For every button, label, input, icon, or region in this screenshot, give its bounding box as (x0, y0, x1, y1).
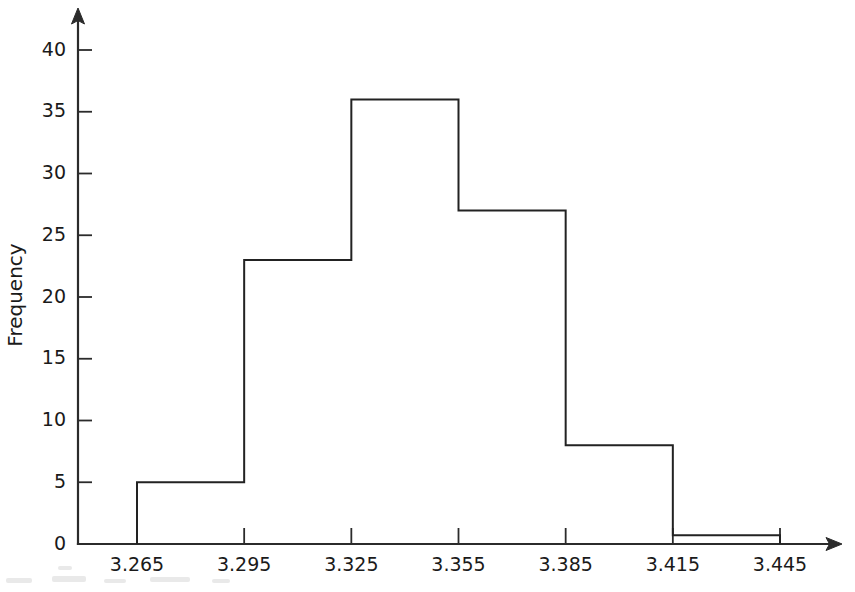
scan-artifact (58, 566, 72, 570)
y-axis (72, 8, 85, 544)
histogram-figure: 0510152025303540 3.2653.2953.3253.3553.3… (0, 0, 855, 592)
y-tick-label: 5 (54, 470, 66, 492)
histogram-bar (459, 211, 566, 544)
x-tick-label: 3.385 (538, 553, 592, 575)
scan-artifact (150, 577, 190, 582)
y-tick-label: 0 (54, 532, 66, 554)
histogram-bars (137, 99, 780, 544)
chart-canvas: 0510152025303540 3.2653.2953.3253.3553.3… (0, 0, 855, 592)
histogram-bar (137, 482, 244, 544)
y-tick-label: 15 (42, 346, 66, 368)
x-tick-label: 3.445 (753, 553, 807, 575)
scan-artifact (104, 579, 126, 583)
y-tick-label: 10 (42, 408, 66, 430)
scan-artifact (6, 578, 32, 583)
histogram-bar (244, 260, 351, 544)
histogram-bar (351, 99, 458, 544)
x-tick-label: 3.415 (646, 553, 700, 575)
y-tick-group: 0510152025303540 (42, 38, 92, 554)
histogram-bar (566, 445, 673, 544)
x-tick-label: 3.265 (110, 553, 164, 575)
scan-artifact (212, 579, 230, 583)
histogram-bar (673, 535, 780, 544)
y-tick-label: 20 (42, 285, 66, 307)
x-tick-label: 3.355 (431, 553, 485, 575)
y-tick-label: 35 (42, 99, 66, 121)
y-tick-label: 40 (42, 38, 66, 60)
y-axis-title: Frequency (3, 243, 27, 346)
y-tick-label: 25 (42, 223, 66, 245)
x-tick-label: 3.295 (217, 553, 271, 575)
y-tick-label: 30 (42, 161, 66, 183)
scan-artifact (52, 576, 86, 582)
x-tick-label: 3.325 (324, 553, 378, 575)
